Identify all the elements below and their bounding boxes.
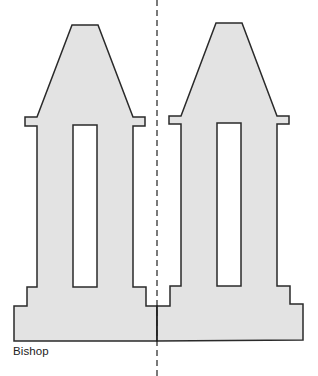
- diagram-caption: Bishop: [13, 345, 49, 357]
- bishop-diagram: [0, 0, 318, 376]
- right-bishop-window: [217, 123, 241, 286]
- left-bishop-window: [73, 125, 97, 287]
